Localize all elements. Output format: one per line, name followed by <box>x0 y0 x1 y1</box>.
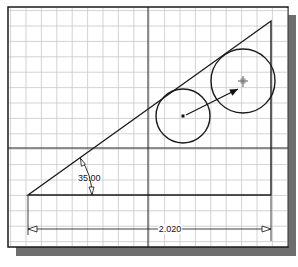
linear-dimension-label[interactable]: 2.020 <box>159 224 182 234</box>
sketch-canvas[interactable]: 35.00 2.020 <box>0 0 298 267</box>
sketch-drawing[interactable]: 35.00 2.020 <box>0 0 298 267</box>
angle-dimension-label[interactable]: 35.00 <box>78 173 101 183</box>
center-point[interactable] <box>182 115 185 118</box>
